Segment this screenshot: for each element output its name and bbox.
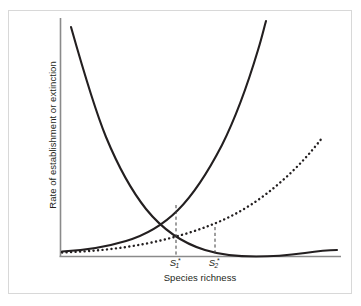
curve-extinction-decreasing <box>71 27 337 256</box>
figure-root: Rate of establishment or extinction Spec… <box>0 0 361 306</box>
tick-s2-superscript: * <box>217 257 220 264</box>
curve-establishment-steep <box>62 21 266 252</box>
tick-s1-superscript: * <box>178 257 181 264</box>
x-tick-label-s2: S2* <box>209 256 222 271</box>
y-axis-title: Rate of establishment or extinction <box>46 15 60 255</box>
x-tick-label-s1: S1* <box>170 256 183 271</box>
x-axis-title: Species richness <box>60 272 340 283</box>
